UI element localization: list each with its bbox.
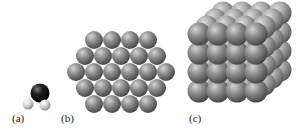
hydrogen-atom-left bbox=[23, 99, 34, 110]
sphere bbox=[85, 31, 103, 49]
sphere bbox=[85, 95, 103, 113]
hydrogen-atom-right bbox=[40, 100, 51, 111]
sphere bbox=[112, 47, 130, 65]
sphere bbox=[148, 47, 166, 65]
sphere bbox=[76, 79, 94, 97]
sphere bbox=[148, 79, 166, 97]
sphere bbox=[130, 47, 148, 65]
sphere bbox=[245, 23, 268, 46]
sphere bbox=[67, 63, 85, 81]
sphere bbox=[103, 95, 121, 113]
sphere bbox=[103, 63, 121, 81]
panel-label-c: (c) bbox=[189, 113, 201, 124]
sphere bbox=[85, 63, 103, 81]
sphere bbox=[121, 31, 139, 49]
panel-label-a: (a) bbox=[12, 113, 24, 124]
cubic-lattice bbox=[188, 2, 292, 103]
sphere bbox=[112, 79, 130, 97]
sphere bbox=[130, 79, 148, 97]
hex-layer bbox=[67, 31, 175, 113]
sphere bbox=[157, 63, 175, 81]
sphere bbox=[121, 95, 139, 113]
sphere bbox=[139, 63, 157, 81]
water-molecule bbox=[23, 84, 51, 111]
sphere bbox=[139, 95, 157, 113]
oxygen-atom bbox=[31, 84, 50, 103]
sphere bbox=[94, 47, 112, 65]
sphere bbox=[121, 63, 139, 81]
sphere bbox=[76, 47, 94, 65]
sphere bbox=[94, 79, 112, 97]
figure: (a) (b) (c) bbox=[0, 0, 304, 129]
sphere bbox=[103, 31, 121, 49]
panel-label-b: (b) bbox=[61, 113, 74, 124]
sphere bbox=[139, 31, 157, 49]
figure-canvas bbox=[0, 0, 304, 129]
